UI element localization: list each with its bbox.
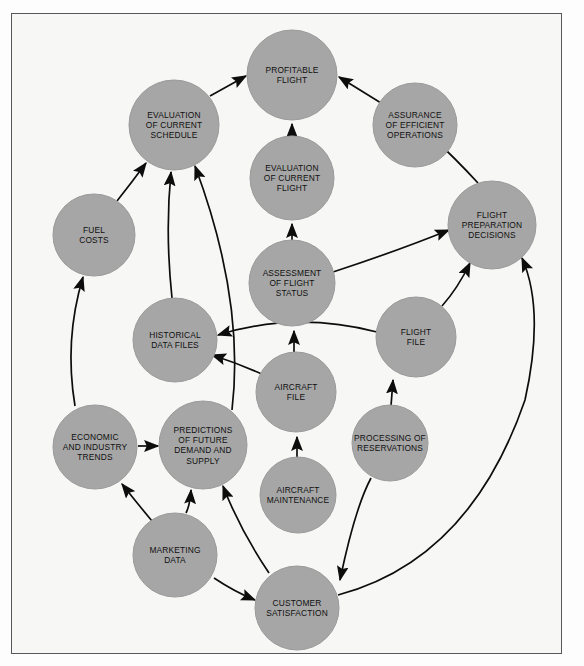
edge-processing-of-reservations-to-flight-file (391, 380, 393, 406)
edge-marketing-data-to-economic-and-industry-trends (122, 484, 152, 521)
edge-economic-and-industry-trends-to-fuel-costs (71, 277, 83, 406)
diagram-page: PROFITABLE FLIGHTEVALUATION OF CURRENT S… (0, 0, 584, 666)
node-flight-file[interactable] (376, 297, 456, 377)
edge-flight-file-to-flight-preparation-decisions (442, 263, 470, 306)
node-aircraft-file[interactable] (256, 352, 336, 432)
edge-fuel-costs-to-evaluation-of-current-schedule (117, 163, 146, 201)
edge-marketing-data-to-customer-satisfaction (214, 578, 255, 600)
node-evaluation-of-current-flight[interactable] (250, 136, 334, 220)
edge-processing-of-reservations-to-customer-satisfaction (340, 478, 371, 580)
node-assurance-of-efficient-operations[interactable] (373, 83, 457, 167)
edge-evaluation-of-current-schedule-to-profitable-flight (210, 76, 246, 96)
node-assessment-of-flight-status[interactable] (249, 240, 335, 326)
edge-historical-data-files-to-evaluation-of-current-schedule (168, 172, 172, 298)
node-predictions-of-future-demand-and-supply[interactable] (159, 401, 247, 489)
node-customer-satisfaction[interactable] (255, 566, 339, 650)
edge-assurance-of-efficient-operations-to-profitable-flight (339, 77, 381, 103)
node-fuel-costs[interactable] (53, 194, 135, 276)
edge-marketing-data-to-predictions-of-future-demand-and-supply (186, 490, 191, 513)
node-economic-and-industry-trends[interactable] (53, 405, 137, 489)
node-processing-of-reservations[interactable] (352, 405, 428, 481)
node-historical-data-files[interactable] (133, 298, 217, 382)
edge-assessment-of-flight-status-to-flight-preparation-decisions (333, 230, 449, 272)
node-profitable-flight[interactable] (247, 30, 337, 120)
node-evaluation-of-current-schedule[interactable] (129, 80, 219, 170)
node-flight-preparation-decisions[interactable] (448, 181, 536, 269)
diagram-canvas (0, 0, 584, 666)
node-marketing-data[interactable] (133, 513, 217, 597)
node-aircraft-maintenance[interactable] (260, 457, 336, 533)
edge-aircraft-file-to-historical-data-files (212, 355, 266, 376)
